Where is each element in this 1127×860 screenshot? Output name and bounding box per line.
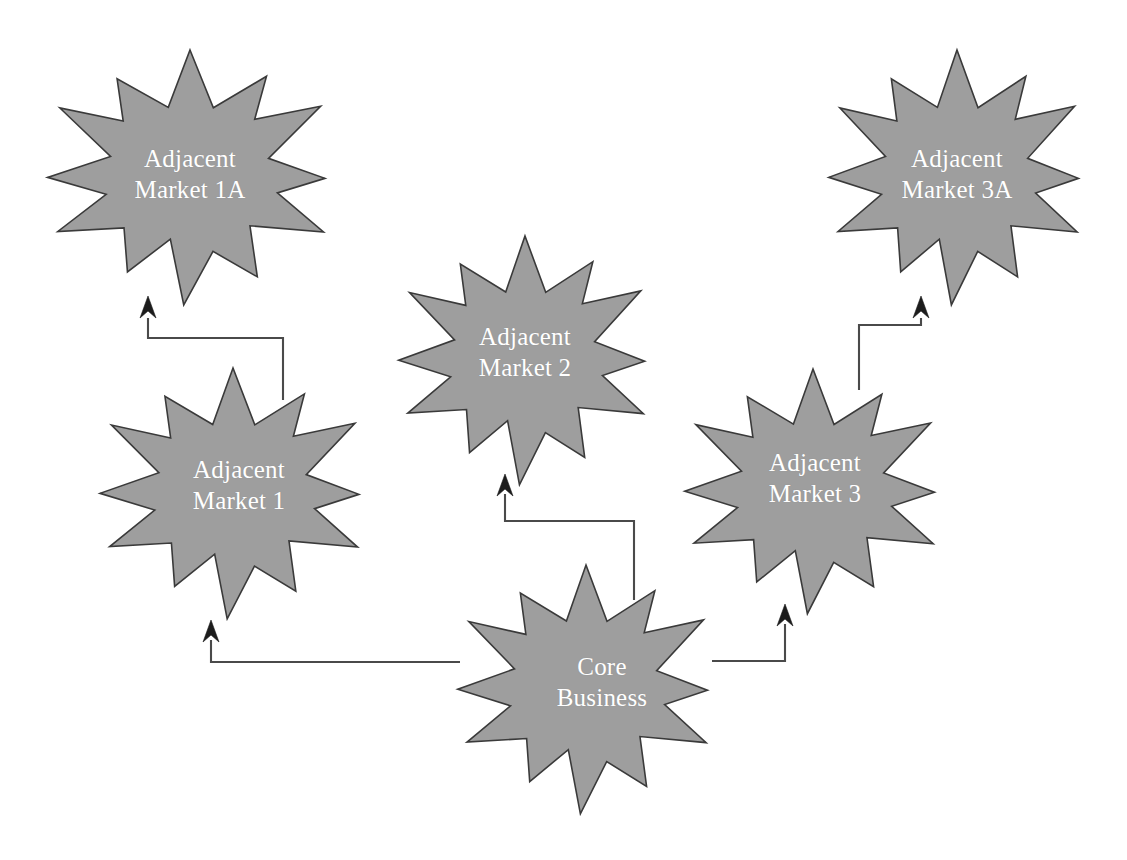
starburst-shape[interactable] — [48, 50, 325, 305]
node-adjacent-market-3a[interactable] — [829, 50, 1079, 305]
diagram-svg — [0, 0, 1127, 860]
connector-market-1-to-market-1a — [140, 296, 283, 400]
stars-layer — [48, 50, 1079, 814]
connector-core-to-market-1 — [203, 620, 460, 662]
connector-core-to-market-2 — [497, 474, 634, 600]
starburst-shape[interactable] — [685, 369, 935, 614]
connector-path — [505, 494, 634, 600]
node-adjacent-market-1[interactable] — [100, 368, 359, 619]
connector-path — [859, 318, 921, 390]
arrow-head-icon — [203, 620, 219, 642]
node-adjacent-market-3[interactable] — [685, 369, 935, 614]
connector-path — [148, 318, 283, 400]
starburst-shape[interactable] — [100, 368, 359, 619]
node-core-business[interactable] — [458, 565, 708, 814]
node-adjacent-market-2[interactable] — [399, 236, 645, 485]
starburst-shape[interactable] — [399, 236, 645, 485]
arrow-head-icon — [140, 296, 156, 318]
connector-core-to-market-3 — [712, 604, 793, 661]
connector-market-3-to-market-3a — [859, 296, 929, 390]
starburst-shape[interactable] — [458, 565, 708, 814]
arrow-head-icon — [913, 296, 929, 318]
diagram-canvas: AdjacentMarket 1AAdjacentMarket 3AAdjace… — [0, 0, 1127, 860]
arrow-head-icon — [497, 474, 513, 496]
arrow-head-icon — [777, 604, 793, 626]
starburst-shape[interactable] — [829, 50, 1079, 305]
connector-path — [211, 640, 460, 662]
connector-path — [712, 624, 785, 661]
node-adjacent-market-1a[interactable] — [48, 50, 325, 305]
